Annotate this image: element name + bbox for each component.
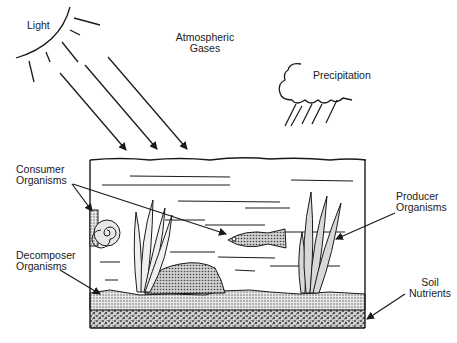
label-atmospheric-gases: Atmospheric Gases xyxy=(170,32,240,54)
label-atmospheric-gases-line2: Gases xyxy=(170,43,240,54)
label-producer-organisms: Producer Organisms xyxy=(396,191,447,213)
label-decomposer-organisms: Decomposer Organisms xyxy=(16,250,76,272)
plant-right xyxy=(299,192,341,293)
light-rays xyxy=(60,57,187,150)
rain-icon xyxy=(285,100,337,126)
label-consumer-organisms: Consumer Organisms xyxy=(16,164,67,186)
aquarium-tank xyxy=(90,158,366,328)
label-precipitation: Precipitation xyxy=(313,70,371,81)
label-consumer-line2: Organisms xyxy=(16,175,67,186)
label-soil-nutrients: Soil Nutrients xyxy=(405,277,455,299)
fish xyxy=(228,229,286,248)
label-producer-line2: Organisms xyxy=(396,202,447,213)
label-decomposer-line2: Organisms xyxy=(16,261,76,272)
snail xyxy=(90,210,120,248)
label-soil-line2: Nutrients xyxy=(405,288,455,299)
label-light: Light xyxy=(27,20,50,31)
